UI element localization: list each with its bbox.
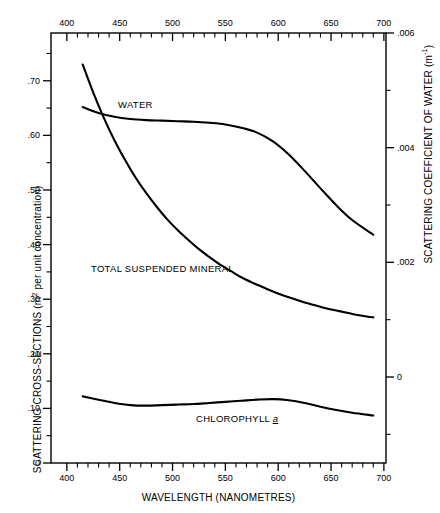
- y-axis-left-title-exponent: 2: [31, 293, 38, 297]
- series-label-chlorophyll-a-main: CHLOROPHYLL: [196, 413, 273, 424]
- y-right-tick-label-p002: .002: [397, 257, 415, 267]
- y-right-tick-label-0: 0: [397, 372, 402, 382]
- series-label-chlorophyll-a: CHLOROPHYLL a: [196, 413, 278, 424]
- x-tick-label-top-700: 700: [376, 18, 391, 28]
- y-axis-left-title: SCATTERING CROSS-SECTIONS (m2 per unit c…: [31, 193, 43, 473]
- x-tick-label-top-650: 650: [324, 18, 339, 28]
- y-axis-left-title-main: SCATTERING CROSS-SECTIONS (m: [32, 297, 43, 474]
- series-label-total-suspended-mineral: TOTAL SUSPENDED MINERAL: [91, 263, 234, 274]
- x-tick-label-bottom-600: 600: [271, 473, 286, 483]
- x-tick-label-bottom-700: 700: [376, 473, 391, 483]
- x-tick-label-bottom-650: 650: [324, 473, 339, 483]
- series-label-water: WATER: [118, 99, 153, 110]
- x-tick-label-bottom-550: 550: [218, 473, 233, 483]
- figure-container: 4004004504505005005505506006006506507007…: [0, 0, 440, 513]
- x-tick-label-top-400: 400: [59, 18, 74, 28]
- plot-frame: [51, 33, 386, 463]
- chart-svg: [0, 0, 440, 513]
- y-right-tick-label-p006: .006: [397, 28, 415, 38]
- x-axis-bottom-ticks: [67, 463, 384, 471]
- y-left-tick-label-p60: .60: [27, 130, 40, 140]
- x-tick-label-top-450: 450: [112, 18, 127, 28]
- y-axis-right-title-exponent: -1: [421, 48, 428, 55]
- y-axis-right-title-main: SCATTERING COEFFICIENT OF WATER (m: [423, 55, 434, 264]
- y-axis-right-ticks: [386, 33, 394, 434]
- y-left-tick-label-p70: .70: [27, 76, 40, 86]
- x-tick-label-bottom-450: 450: [112, 473, 127, 483]
- y-axis-left-title-tail: per unit concentration): [32, 185, 43, 292]
- x-tick-label-top-550: 550: [218, 18, 233, 28]
- y-axis-left-ticks: [43, 53, 51, 463]
- x-tick-label-bottom-500: 500: [165, 473, 180, 483]
- y-axis-right-title: SCATTERING COEFFICIENT OF WATER (m-1): [421, 22, 433, 287]
- x-tick-label-top-500: 500: [165, 18, 180, 28]
- series-label-chlorophyll-a-italic: a: [273, 413, 279, 424]
- x-tick-label-top-600: 600: [271, 18, 286, 28]
- y-right-tick-label-p004: .004: [397, 143, 415, 153]
- x-tick-label-bottom-400: 400: [59, 473, 74, 483]
- x-axis-title: WAVELENGTH (NANOMETRES): [51, 492, 386, 503]
- y-axis-right-title-tail: ): [423, 45, 434, 49]
